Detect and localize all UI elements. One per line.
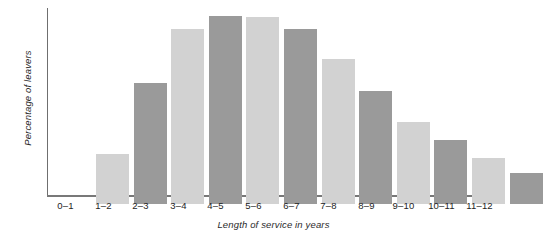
bar[interactable] (359, 91, 392, 204)
x-tick-label: 1–2 (85, 200, 123, 211)
x-tick-label: 6–7 (273, 200, 311, 211)
x-axis-title: Length of service in years (47, 219, 500, 230)
x-axis-tick-labels: 0–11–22–33–44–55–66–77–88–99–1010–1111–1… (49, 200, 500, 216)
bars-group (96, 16, 547, 204)
bar[interactable] (209, 16, 242, 204)
bar[interactable] (397, 122, 430, 204)
bar[interactable] (171, 29, 204, 204)
bar[interactable] (322, 59, 355, 204)
x-tick-label: 10–11 (423, 200, 461, 211)
bar[interactable] (134, 83, 167, 204)
x-tick-label: 9–10 (385, 200, 423, 211)
x-tick-label: 11–12 (461, 200, 499, 211)
bar[interactable] (96, 154, 129, 204)
x-tick-label: 7–8 (310, 200, 348, 211)
x-tick-label: 0–1 (47, 200, 85, 211)
bar[interactable] (434, 140, 467, 204)
x-tick-label: 3–4 (160, 200, 198, 211)
bar[interactable] (246, 17, 279, 204)
x-tick-label: 8–9 (348, 200, 386, 211)
x-tick-label: 2–3 (122, 200, 160, 211)
x-tick-label: 4–5 (197, 200, 235, 211)
y-axis-title: Percentage of leavers (14, 0, 40, 196)
bar[interactable] (472, 158, 505, 204)
bar[interactable] (284, 29, 317, 204)
bar[interactable] (510, 173, 543, 204)
x-tick-label: 5–6 (235, 200, 273, 211)
plot-area (47, 8, 500, 196)
